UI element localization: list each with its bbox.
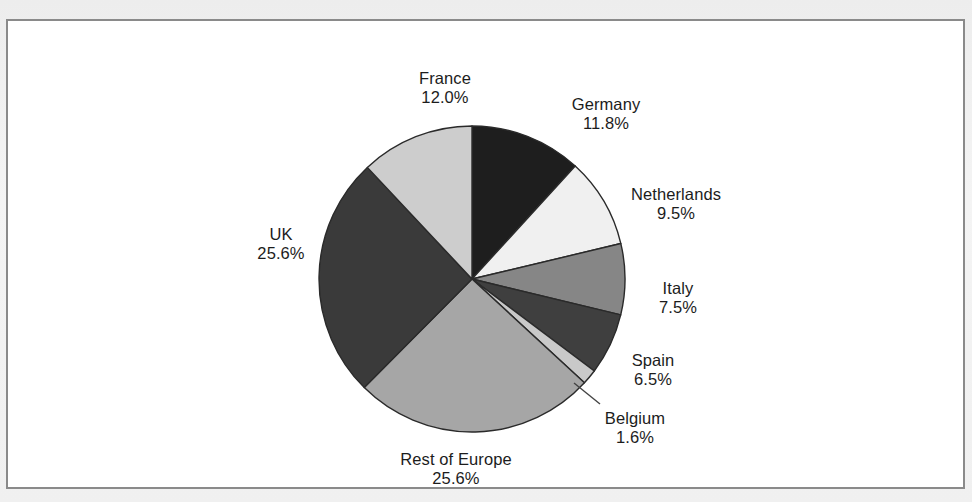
pie-slice-group bbox=[319, 126, 625, 432]
pie-label-name-france: France bbox=[419, 69, 471, 88]
pie-label-france: France12.0% bbox=[419, 69, 471, 107]
pie-label-name-germany: Germany bbox=[572, 95, 641, 114]
pie-label-rest-of-europe: Rest of Europe25.6% bbox=[400, 450, 511, 488]
pie-label-name-uk: UK bbox=[257, 225, 304, 244]
pie-chart-svg bbox=[8, 21, 967, 491]
pie-label-value-rest-of-europe: 25.6% bbox=[400, 469, 511, 488]
pie-label-value-germany: 11.8% bbox=[572, 114, 641, 133]
pie-label-value-netherlands: 9.5% bbox=[631, 204, 721, 223]
pie-label-name-netherlands: Netherlands bbox=[631, 185, 721, 204]
pie-label-name-belgium: Belgium bbox=[605, 409, 665, 428]
belgium-leader-line bbox=[574, 383, 600, 404]
pie-label-name-spain: Spain bbox=[632, 351, 675, 370]
pie-label-spain: Spain6.5% bbox=[632, 351, 675, 389]
leader-line-group bbox=[574, 383, 600, 404]
pie-label-netherlands: Netherlands9.5% bbox=[631, 185, 721, 223]
pie-chart: Germany11.8%Netherlands9.5%Italy7.5%Spai… bbox=[8, 21, 963, 487]
pie-label-name-italy: Italy bbox=[659, 279, 697, 298]
pie-label-value-uk: 25.6% bbox=[257, 244, 304, 263]
pie-label-value-belgium: 1.6% bbox=[605, 428, 665, 447]
pie-label-value-italy: 7.5% bbox=[659, 298, 697, 317]
pie-label-value-france: 12.0% bbox=[419, 88, 471, 107]
pie-label-value-spain: 6.5% bbox=[632, 370, 675, 389]
pie-label-belgium: Belgium1.6% bbox=[605, 409, 665, 447]
pie-label-uk: UK25.6% bbox=[257, 225, 304, 263]
pie-label-germany: Germany11.8% bbox=[572, 95, 641, 133]
screenshot-page: Germany11.8%Netherlands9.5%Italy7.5%Spai… bbox=[0, 0, 972, 502]
figure-frame: Germany11.8%Netherlands9.5%Italy7.5%Spai… bbox=[6, 19, 965, 489]
pie-label-italy: Italy7.5% bbox=[659, 279, 697, 317]
pie-label-name-rest-of-europe: Rest of Europe bbox=[400, 450, 511, 469]
